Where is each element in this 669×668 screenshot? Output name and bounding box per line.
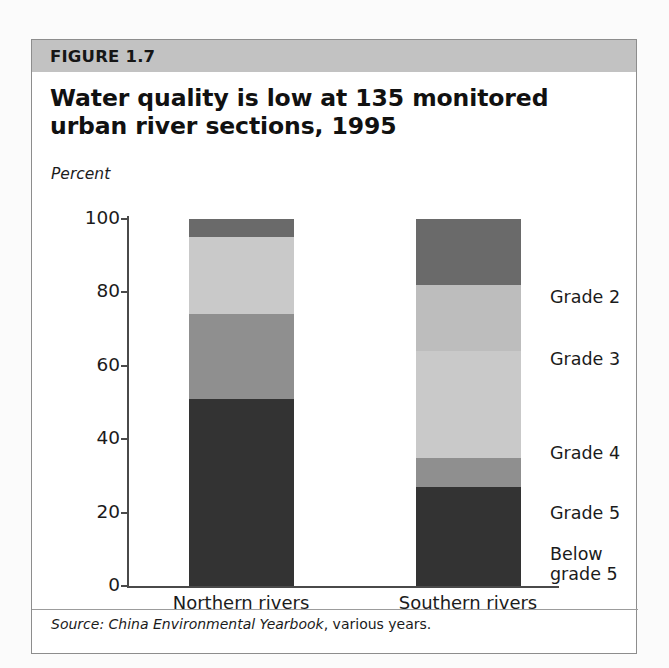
bar-segment-grade-2[interactable] bbox=[189, 219, 294, 237]
source-tail: , various years. bbox=[324, 616, 432, 632]
bar-segment-grade-4[interactable] bbox=[189, 237, 294, 314]
bar-segment-grade-2[interactable] bbox=[416, 219, 521, 285]
bar-segment-grade-5[interactable] bbox=[416, 458, 521, 487]
legend-item-grade3[interactable]: Grade 3 bbox=[550, 350, 620, 370]
plot-area bbox=[127, 219, 547, 586]
y-tick-mark bbox=[121, 585, 127, 587]
y-tick-mark bbox=[121, 291, 127, 293]
figure-container: FIGURE 1.7 Water quality is low at 135 m… bbox=[31, 39, 637, 654]
source-divider bbox=[32, 609, 638, 610]
source-publication-title: China Environmental Yearbook bbox=[109, 616, 324, 632]
source-lead: Source: bbox=[51, 616, 104, 632]
legend-label-line: Below bbox=[550, 545, 618, 565]
y-tick-mark bbox=[121, 218, 127, 220]
source-note: Source: China Environmental Yearbook, va… bbox=[51, 616, 431, 632]
legend-label-line: grade 5 bbox=[550, 565, 618, 585]
y-tick-label: 20 bbox=[72, 501, 120, 522]
y-tick-mark bbox=[121, 512, 127, 514]
y-tick-mark bbox=[121, 365, 127, 367]
screenshot-page: FIGURE 1.7 Water quality is low at 135 m… bbox=[0, 0, 669, 668]
bar-segment-grade-4[interactable] bbox=[416, 351, 521, 457]
legend-label: Grade 4 bbox=[550, 443, 620, 463]
bar-segment-below-grade-5[interactable] bbox=[189, 399, 294, 586]
legend-label: Grade 3 bbox=[550, 349, 620, 369]
bar-southern-rivers[interactable] bbox=[416, 219, 521, 586]
bar-segment-below-grade-5[interactable] bbox=[416, 487, 521, 586]
legend-item-grade4[interactable]: Grade 4 bbox=[550, 444, 620, 464]
legend-label: Grade 2 bbox=[550, 287, 620, 307]
bar-northern-rivers[interactable] bbox=[189, 219, 294, 586]
legend-item-grade5[interactable]: Grade 5 bbox=[550, 504, 620, 524]
legend-item-below5[interactable]: Belowgrade 5 bbox=[550, 545, 618, 585]
y-tick-label: 60 bbox=[72, 354, 120, 375]
bar-segment-grade-3[interactable] bbox=[416, 285, 521, 351]
y-tick-label: 100 bbox=[72, 207, 120, 228]
y-tick-label: 40 bbox=[72, 427, 120, 448]
y-axis-tick-labels: 020406080100 bbox=[62, 216, 120, 588]
chart-plot: 020406080100 Northern riversSouthern riv… bbox=[32, 40, 638, 655]
legend-item-grade2[interactable]: Grade 2 bbox=[550, 288, 620, 308]
x-axis-line bbox=[127, 586, 559, 588]
y-tick-label: 0 bbox=[72, 574, 120, 595]
y-tick-label: 80 bbox=[72, 280, 120, 301]
legend-label: Grade 5 bbox=[550, 503, 620, 523]
bar-segment-grade-5[interactable] bbox=[189, 314, 294, 398]
y-tick-mark bbox=[121, 438, 127, 440]
